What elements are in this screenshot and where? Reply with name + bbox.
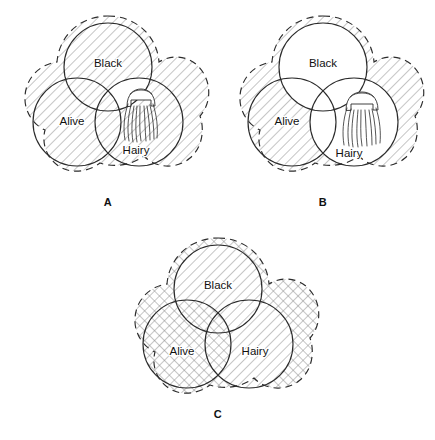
panel-c-crosshatch-alive-region <box>110 226 326 438</box>
panel-a-caption: A <box>2 196 214 208</box>
panel-c-label-hairy: Hairy <box>242 345 269 357</box>
panel-c-label-alive: Alive <box>170 345 195 357</box>
venn-panel-c-svg: Black Alive Hairy <box>110 226 326 438</box>
panel-b-label-black: Black <box>309 57 337 69</box>
panel-b-label-hairy: Hairy <box>336 147 363 159</box>
venn-panel-b-svg: Black Alive Hairy <box>217 4 429 218</box>
venn-figure: Black Alive Hairy A <box>0 0 435 440</box>
panel-a-label-alive: Alive <box>60 115 85 127</box>
venn-panel-c: Black Alive Hairy <box>110 226 326 438</box>
panel-b-label-alive: Alive <box>275 115 300 127</box>
panel-a-label-black: Black <box>94 57 122 69</box>
venn-panel-b: Black Alive Hairy <box>217 4 429 218</box>
panel-b-caption: B <box>217 196 429 208</box>
panel-a-label-hairy: Hairy <box>123 144 150 156</box>
panel-c-caption: C <box>110 408 326 420</box>
venn-panel-a-svg: Black Alive Hairy <box>2 4 214 218</box>
venn-panel-a: Black Alive Hairy <box>2 4 214 218</box>
panel-c-label-black: Black <box>204 279 232 291</box>
